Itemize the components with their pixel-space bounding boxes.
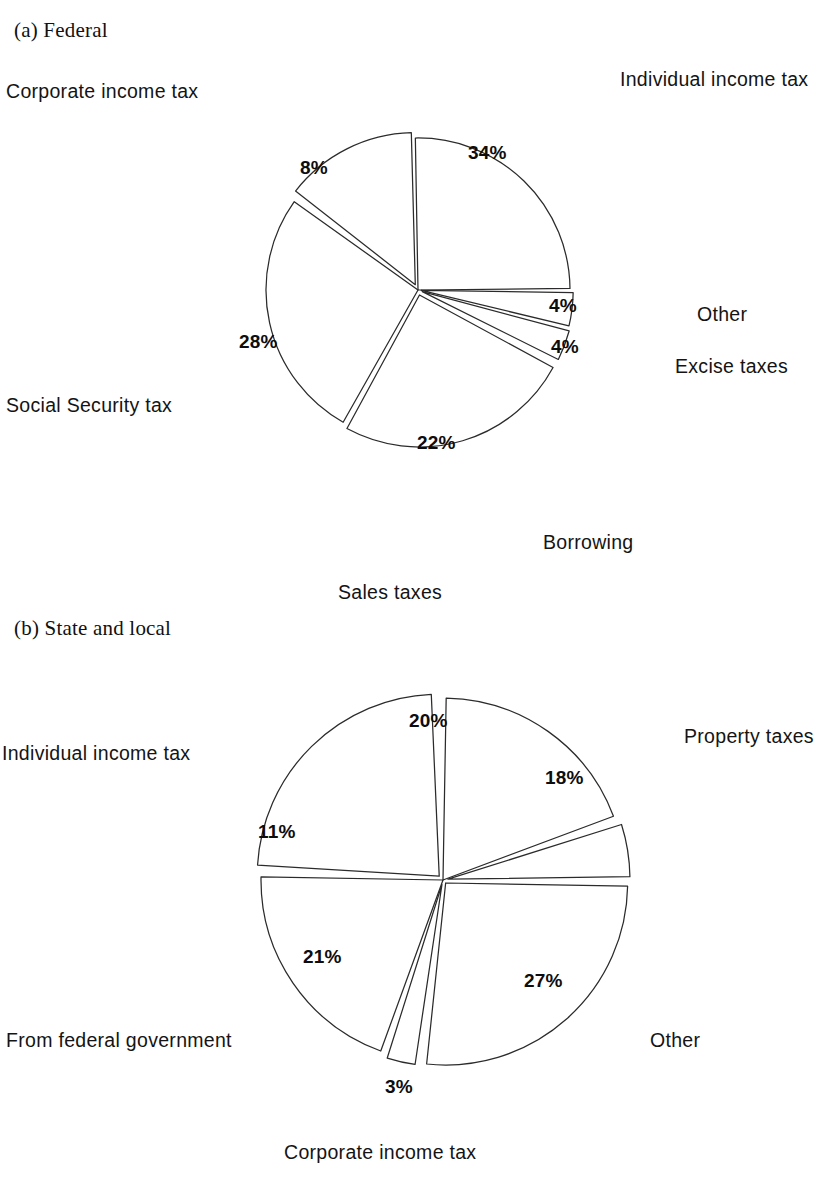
label-corporate-income-tax-federal: Corporate income tax: [6, 80, 198, 103]
pie-slice-federal-borrowing: [347, 295, 553, 447]
pie-slice-federal-excise: [422, 292, 569, 360]
value-corporate-income-tax-federal: 8%: [300, 157, 328, 179]
label-individual-income-tax-state: Individual income tax: [2, 742, 190, 765]
value-corporate-income-tax-state: 3%: [385, 1076, 413, 1098]
value-individual-income-tax-state: 11%: [258, 821, 296, 843]
label-sales-taxes: Sales taxes: [338, 581, 442, 604]
pie-slice-state-property: [448, 824, 630, 879]
label-social-security-tax: Social Security tax: [6, 394, 172, 417]
label-individual-income-tax-federal: Individual income tax: [620, 68, 808, 91]
value-individual-income-tax-federal: 34%: [468, 142, 507, 164]
value-property-taxes: 18%: [545, 767, 584, 789]
pie-slice-state-corporate: [387, 884, 442, 1064]
label-from-federal-government: From federal government: [6, 1029, 232, 1052]
pie-slice-federal-corporate: [296, 133, 416, 285]
label-corporate-income-tax-state: Corporate income tax: [284, 1141, 476, 1164]
label-excise-taxes: Excise taxes: [675, 355, 788, 378]
label-other-state: Other: [650, 1029, 700, 1052]
value-excise-taxes: 4%: [551, 336, 579, 358]
value-from-federal-government: 21%: [303, 946, 342, 968]
value-other-state: 27%: [524, 970, 563, 992]
label-other-federal: Other: [697, 303, 747, 326]
pie-slice-federal-social: [266, 202, 418, 423]
pie-slice-state-sales: [443, 698, 613, 880]
value-borrowing: 22%: [417, 432, 456, 454]
figure-canvas: (a) Federal (b) State and local Individu…: [0, 0, 838, 1181]
value-social-security-tax: 28%: [239, 331, 278, 353]
label-borrowing: Borrowing: [543, 531, 634, 554]
pie-slice-state-federal_aid: [261, 877, 443, 1051]
panel-b-title: (b) State and local: [14, 616, 171, 641]
panel-a-title: (a) Federal: [14, 18, 108, 43]
label-property-taxes: Property taxes: [684, 725, 814, 748]
value-other-federal: 4%: [549, 295, 577, 317]
value-sales-taxes: 20%: [409, 710, 448, 732]
